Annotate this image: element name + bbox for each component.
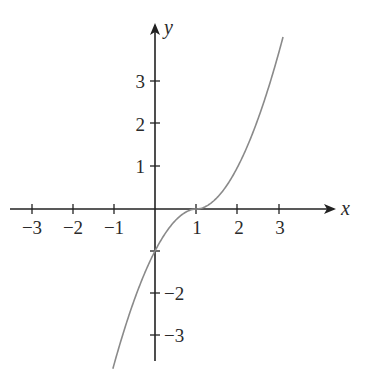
x-tick-label: 1 — [192, 217, 202, 238]
x-tick-label: 2 — [234, 217, 244, 238]
x-tick-label: −2 — [63, 217, 83, 238]
y-tick-label: −3 — [164, 325, 184, 346]
x-axis-label: x — [340, 197, 350, 219]
y-axis-label: y — [162, 16, 173, 39]
y-tick-label: 2 — [136, 114, 146, 135]
y-tick-label: 1 — [136, 156, 146, 177]
x-tick-label: −3 — [22, 217, 42, 238]
function-graph: −3 −2 −1 1 2 3 3 2 1 −2 −3 x y — [0, 0, 379, 382]
y-tick-label: −2 — [164, 283, 184, 304]
x-tick-label: 3 — [275, 217, 285, 238]
y-tick-label: 3 — [136, 71, 146, 92]
x-tick-label: −1 — [104, 217, 124, 238]
